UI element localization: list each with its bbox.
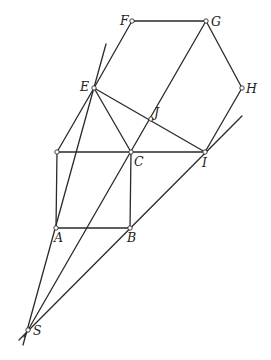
segment-hi — [205, 88, 242, 152]
label-g: G — [211, 14, 221, 29]
label-h: H — [245, 81, 258, 96]
segment-cb — [130, 152, 131, 228]
point-g — [204, 19, 208, 23]
point-h — [240, 86, 244, 90]
label-c: C — [134, 154, 144, 169]
label-f: F — [119, 13, 130, 28]
point-f — [130, 19, 134, 23]
label-s: S — [33, 323, 42, 338]
point-s — [26, 328, 30, 332]
label-e: E — [79, 79, 89, 94]
label-i: I — [201, 155, 208, 170]
line-segments — [19, 21, 242, 345]
vertex-points — [26, 19, 244, 332]
segment-ep — [57, 88, 94, 152]
point-p — [55, 150, 59, 154]
label-b: B — [126, 230, 136, 245]
segment-ec — [94, 88, 131, 152]
segment-pa — [56, 152, 57, 228]
point-e — [92, 86, 96, 90]
point-j — [149, 117, 153, 121]
point-c — [129, 150, 133, 154]
label-a: A — [53, 230, 63, 245]
vertex-labels: FGEHJCIABS — [33, 13, 258, 338]
segment-gh — [206, 21, 242, 88]
geometry-diagram: FGEHJCIABS — [0, 0, 271, 360]
segment-fe — [94, 21, 132, 88]
point-i — [203, 150, 207, 154]
